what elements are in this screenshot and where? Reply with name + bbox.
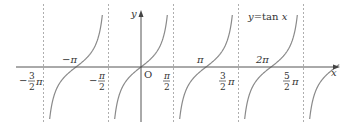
svg-text:2: 2	[29, 82, 35, 92]
svg-text:2: 2	[284, 82, 290, 92]
svg-text:2: 2	[164, 82, 170, 92]
svg-text:5: 5	[284, 71, 290, 81]
tick-label-neg-pi-2: − π 2	[89, 71, 106, 92]
svg-text:π: π	[163, 71, 171, 81]
tan-graph: x y O y=tan x −π π 2π − 3 2 π − π 2 π 2 …	[0, 0, 348, 127]
x-axis-label: x	[331, 67, 337, 78]
svg-text:π: π	[98, 71, 106, 81]
svg-text:3: 3	[29, 71, 35, 81]
svg-text:π: π	[227, 76, 235, 87]
tick-label-pi: π	[196, 54, 204, 65]
curve-label: y=tan x	[247, 11, 288, 22]
svg-text:π: π	[291, 76, 299, 87]
y-axis-label: y	[130, 8, 137, 19]
svg-text:3: 3	[220, 71, 226, 81]
tick-label-2pi: 2π	[255, 54, 269, 65]
svg-text:2: 2	[220, 82, 226, 92]
tick-label-pi-2: π 2	[163, 71, 171, 92]
plot-area: x y O y=tan x −π π 2π − 3 2 π − π 2 π 2 …	[0, 0, 348, 127]
tick-label-3-2-pi: 3 2 π	[219, 71, 235, 92]
svg-text:π: π	[35, 76, 43, 87]
y-axis-arrow-icon	[139, 10, 144, 17]
tick-label-neg-pi: −π	[62, 54, 77, 65]
svg-text:2: 2	[99, 82, 105, 92]
svg-text:−: −	[89, 75, 97, 86]
tick-label-5-2-pi: 5 2 π	[283, 71, 299, 92]
tick-label-neg-3-2-pi: − 3 2 π	[19, 71, 43, 92]
svg-text:−: −	[19, 75, 27, 86]
origin-label: O	[144, 69, 152, 80]
